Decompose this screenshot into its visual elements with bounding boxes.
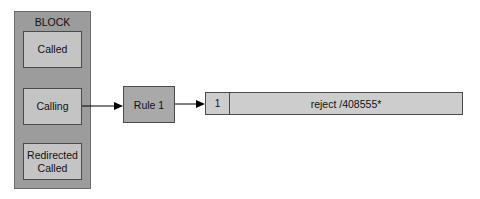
arrow-icon	[175, 100, 205, 108]
connector-arrows	[0, 0, 480, 199]
arrow-icon	[82, 102, 123, 110]
